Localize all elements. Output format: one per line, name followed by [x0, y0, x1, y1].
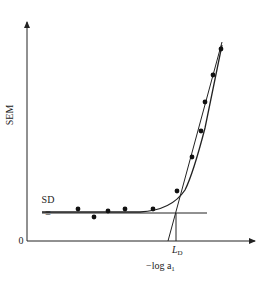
data-point: [175, 189, 180, 194]
data-point: [92, 215, 97, 220]
y-axis-label: SEM: [4, 105, 15, 126]
data-point: [219, 47, 224, 52]
data-point: [151, 207, 156, 212]
data-point: [123, 207, 128, 212]
sd-symbol: ≡: [45, 207, 51, 218]
sd-label: SD: [42, 194, 55, 205]
data-point: [190, 155, 195, 160]
data-point: [199, 129, 204, 134]
x-axis-label: −log a1: [146, 260, 175, 273]
data-point: [203, 100, 208, 105]
data-point: [211, 73, 216, 78]
data-point: [106, 209, 111, 214]
data-point: [76, 207, 81, 212]
chart: SEM 0 SD ≡ LD −log a1: [0, 0, 269, 284]
steep-asymptote: [168, 42, 222, 241]
ld-label: LD: [171, 244, 183, 257]
data-points: [76, 47, 224, 220]
fitted-curve: [42, 45, 222, 212]
origin-label: 0: [19, 235, 24, 246]
